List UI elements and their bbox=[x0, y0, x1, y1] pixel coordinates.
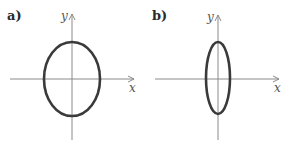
panel-b: b) y x bbox=[152, 8, 281, 140]
diagram-canvas: a) y x b) y x bbox=[0, 0, 284, 147]
panel-a: a) y x bbox=[7, 8, 136, 140]
y-axis-label: y bbox=[60, 9, 68, 23]
x-axis-label: x bbox=[129, 81, 136, 95]
panel-a-label: a) bbox=[7, 8, 22, 23]
y-axis-label: y bbox=[206, 10, 214, 24]
x-axis-label: x bbox=[274, 81, 281, 95]
panel-b-label: b) bbox=[152, 8, 167, 23]
